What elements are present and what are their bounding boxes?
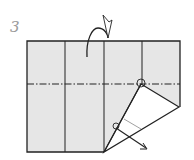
origami-diagram (0, 0, 194, 160)
turn-over-arrowhead (103, 15, 112, 38)
